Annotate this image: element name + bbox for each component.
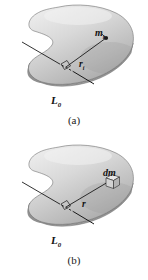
body-shade-a [80,42,140,74]
panel-b: dm r L0 (b) [0,140,148,280]
label-radius-b: r [82,200,86,212]
label-mass-element: dm [103,168,116,178]
label-point-mass: mi [95,28,105,40]
panel-b-diagram [0,140,148,258]
label-axis-a: L0 [51,95,61,109]
label-radius-a: ri [79,60,84,72]
panel-a-stage: mi ri L0 [0,0,148,118]
caption-b: (b) [0,254,148,266]
panel-a-diagram [0,0,148,118]
caption-a: (a) [0,114,148,126]
panel-a: mi ri L0 (a) [0,0,148,140]
panel-b-stage: dm r L0 [0,140,148,258]
rotational-inertia-figure: mi ri L0 (a) [0,0,148,280]
label-axis-b: L0 [51,235,61,249]
body-highlight-a [44,7,112,25]
body-highlight-b [44,147,112,165]
